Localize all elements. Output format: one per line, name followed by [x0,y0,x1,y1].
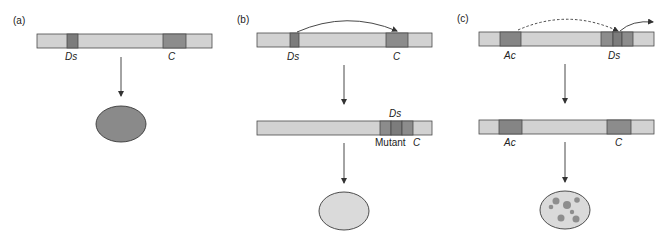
c-label: C [615,137,623,148]
ac-label: Ac [503,137,516,148]
ds-label: Ds [287,51,299,62]
kernel-spotted [540,191,590,229]
chromosome-c-bottom [479,120,654,134]
pigment-spot [573,216,580,223]
ds-inserted [613,32,622,46]
ac-activation-arrow [518,19,618,31]
chromosome-a [37,34,212,48]
pigment-spot [553,198,560,205]
ds-insert-label: Ds [389,108,401,119]
pigment-spot [574,197,580,203]
c-gene [386,33,408,47]
ds-excision-arrow [620,22,653,31]
panel-label-b: (b) [237,14,249,25]
ds-element [67,34,78,48]
c-gene [163,34,186,48]
pigment-spot [563,201,571,209]
ds-label: Ds [608,50,620,61]
transposition-diagram: (a) Ds C (b) Ds C Ds Mutant [0,0,670,240]
ds-label: Ds [65,51,77,62]
panel-c: (c) Ac Ds Ac C [457,13,654,229]
panel-b: (b) Ds C Ds Mutant C [237,14,432,230]
pigment-spot [558,215,565,222]
panel-label-a: (a) [13,15,25,26]
kernel-colored [96,106,146,142]
mutant-c-right [622,32,633,46]
pigment-spot [549,205,554,210]
chromosome-b-top [257,33,432,47]
chromosome-c-top [479,32,654,46]
ds-element [290,33,299,47]
ac-element [499,120,522,134]
c-label: C [393,51,401,62]
mutant-c-left [601,32,613,46]
mutant-c-left [380,121,391,135]
ds-inserted [391,121,402,135]
panel-a: (a) Ds C [13,15,212,142]
panel-label-c: (c) [457,13,469,24]
ac-label: Ac [503,50,516,61]
transposition-arrow [297,21,397,32]
c-gene [607,120,631,134]
c-label: C [168,51,176,62]
kernel-colorless [319,192,369,230]
ac-element [500,32,521,46]
pigment-spot [570,210,574,214]
